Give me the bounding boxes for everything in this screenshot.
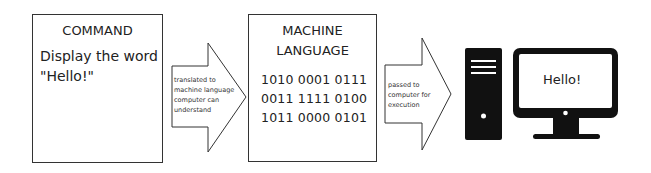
binary-line-3: 1011 0000 0101 bbox=[261, 108, 367, 127]
arrow2-line-3: execution bbox=[388, 100, 430, 110]
command-title: COMMAND bbox=[33, 23, 162, 38]
command-line-1: Display the word bbox=[40, 46, 158, 66]
arrow1-line-4: understand bbox=[174, 105, 234, 115]
binary-line-2: 0011 1111 0100 bbox=[261, 89, 367, 108]
command-text: Display the word "Hello!" bbox=[40, 46, 158, 86]
arrow1-line-3: computer can bbox=[174, 95, 234, 105]
machine-title-line-2: LANGUAGE bbox=[249, 41, 376, 61]
binary-code: 1010 0001 0111 0011 1111 0100 1011 0000 … bbox=[261, 70, 367, 127]
command-line-2: "Hello!" bbox=[40, 66, 158, 86]
command-box: COMMAND Display the word "Hello!" bbox=[32, 14, 163, 163]
monitor-icon bbox=[513, 48, 619, 141]
translate-arrow-label: translated to machine language computer … bbox=[174, 75, 234, 115]
computer-tower-icon bbox=[465, 48, 503, 141]
machine-language-box: MACHINE LANGUAGE 1010 0001 0111 0011 111… bbox=[248, 14, 377, 162]
arrow1-line-1: translated to bbox=[174, 75, 234, 85]
binary-line-1: 1010 0001 0111 bbox=[261, 70, 367, 89]
machine-title-line-1: MACHINE bbox=[249, 21, 376, 41]
monitor-screen-text: Hello! bbox=[543, 72, 581, 87]
arrow2-line-1: passed to bbox=[388, 80, 430, 90]
arrow2-line-2: computer for bbox=[388, 90, 430, 100]
arrow1-line-2: machine language bbox=[174, 85, 234, 95]
execute-arrow-label: passed to computer for execution bbox=[388, 80, 430, 110]
machine-language-title: MACHINE LANGUAGE bbox=[249, 21, 376, 61]
